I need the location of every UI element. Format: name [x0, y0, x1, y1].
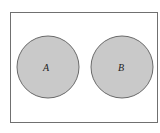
- set-a-label: A: [42, 62, 50, 73]
- venn-diagram: A B: [0, 0, 160, 133]
- set-b-label: B: [118, 62, 124, 73]
